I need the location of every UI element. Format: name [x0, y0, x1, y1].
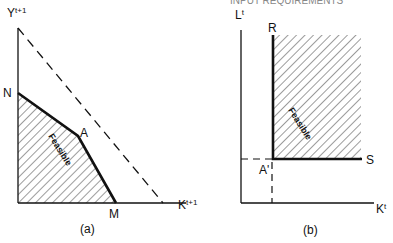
- panel-a: Yt+1 N A M Kt+1 Feasible (a): [3, 6, 198, 236]
- panel-b: Lt R A' S Kt Feasible (b): [235, 8, 387, 237]
- label-n: N: [3, 86, 12, 100]
- x-axis-label-a: Kt+1: [178, 198, 198, 212]
- caption-b: (b): [303, 223, 318, 237]
- x-axis-label-b: Kt: [376, 202, 387, 216]
- feasible-region-b: [273, 35, 361, 159]
- label-m: M: [109, 207, 119, 221]
- feasible-region-a: [18, 93, 116, 203]
- header-cut-text: INPUT REQUIREMENTS: [230, 0, 343, 6]
- caption-a: (a): [80, 222, 95, 236]
- y-axis-label-b: Lt: [235, 8, 245, 22]
- label-a-prime: A': [259, 163, 269, 177]
- label-r: R: [268, 21, 277, 35]
- y-axis-label-a: Yt+1: [7, 6, 27, 20]
- label-s: S: [366, 153, 374, 167]
- diagram-canvas: INPUT REQUIREMENTS Yt+1 N A M Kt+1 Feasi…: [0, 0, 393, 243]
- label-a: A: [80, 126, 88, 140]
